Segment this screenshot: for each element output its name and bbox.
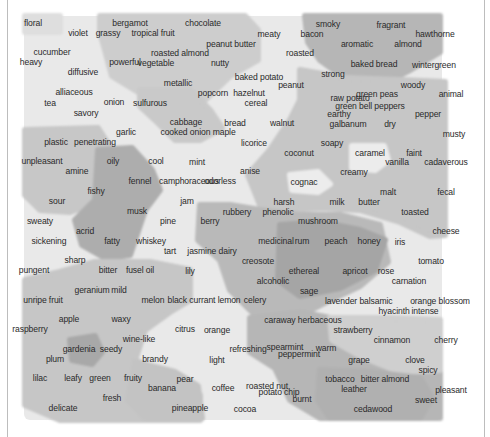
odor-label: pleasant <box>435 386 467 395</box>
odor-label: fruity <box>124 374 142 383</box>
odor-label: walnut <box>270 119 294 128</box>
odor-label: carnation <box>392 277 426 286</box>
odor-label: green <box>89 374 110 383</box>
odor-label: seedy <box>100 345 122 354</box>
odor-label: wintergreen <box>412 61 456 70</box>
odor-label: peanut butter <box>206 40 255 49</box>
odor-label: pepper <box>415 110 441 119</box>
odor-label: berry <box>200 217 219 226</box>
odor-label: citrus <box>175 325 195 334</box>
odor-label: banana <box>148 384 176 393</box>
odor-label: cherry <box>434 336 457 345</box>
odor-label: fennel <box>129 177 152 186</box>
odor-label: milk <box>330 198 345 207</box>
odor-label: animal <box>439 90 464 99</box>
odor-label: cabbage <box>170 118 202 127</box>
odor-label: honey <box>358 237 381 246</box>
odor-label: lilac <box>33 374 47 383</box>
odor-label: sulfurous <box>133 99 167 108</box>
odor-label: apple <box>59 315 80 324</box>
odor-label: burnt <box>292 395 311 404</box>
odor-label: creamy <box>340 168 368 177</box>
odor-label: orange <box>204 326 230 335</box>
odor-label: anise <box>240 167 260 176</box>
odor-label: caramel <box>355 149 385 158</box>
odor-label: refreshing <box>229 345 266 354</box>
odor-label: bergamot <box>112 19 148 28</box>
odor-label: tart <box>164 247 176 256</box>
odor-label: celery <box>244 296 266 305</box>
odor-label: metallic <box>164 79 192 88</box>
odor-label: vanilla <box>385 158 409 167</box>
odor-label: brandy <box>142 355 168 364</box>
odor-label: caraway herbaceous <box>264 316 342 325</box>
odor-label: hazelnut <box>233 89 265 98</box>
odor-label: black currant lemon <box>167 296 240 305</box>
odor-label: iris <box>395 238 406 247</box>
odor-label: whiskey <box>136 237 166 246</box>
odor-label: strong <box>321 70 344 79</box>
odor-label: baked potato <box>235 73 284 82</box>
odor-label: ethereal <box>289 267 319 276</box>
odor-label: cocoa <box>234 405 256 414</box>
odor-label: aromatic <box>341 40 373 49</box>
odor-label: baked bread <box>351 60 398 69</box>
odor-label: leather <box>341 385 367 394</box>
odor-label: leafy <box>64 374 82 383</box>
odor-label: vegetable <box>138 59 174 68</box>
label-layer: floralbergamotchocolatesmokyfragrantviol… <box>0 0 490 437</box>
odor-label: acrid <box>76 227 94 236</box>
odor-label: jam <box>180 197 194 206</box>
odor-label: popcorn <box>198 89 228 98</box>
odor-label: mushroom <box>298 217 338 226</box>
odor-label: cereal <box>245 99 268 108</box>
odor-label: sage <box>300 287 318 296</box>
odor-label: waxy <box>111 315 130 324</box>
odor-descriptor-map: floralbergamotchocolatesmokyfragrantviol… <box>22 14 462 430</box>
odor-label: mint <box>189 158 205 167</box>
odor-label: balsamic <box>359 297 392 306</box>
odor-label: bitter <box>99 266 118 275</box>
odor-label: melon <box>142 296 165 305</box>
odor-label: soapy <box>321 139 343 148</box>
odor-label: amine <box>66 167 89 176</box>
odor-label: almond <box>394 40 422 49</box>
odor-label: garlic <box>116 128 136 137</box>
odor-label: lavender <box>325 297 357 306</box>
odor-label: musk <box>127 207 147 216</box>
odor-label: tropical fruit <box>131 29 174 38</box>
odor-label: alliaceous <box>55 88 92 97</box>
odor-label: unpleasant <box>21 157 62 166</box>
odor-label: rose <box>378 267 394 276</box>
odor-label: sweet <box>415 396 437 405</box>
odor-label: powerful <box>109 58 141 67</box>
odor-label: bacon <box>301 30 324 39</box>
odor-label: fresh <box>103 394 122 403</box>
odor-label: coconut <box>284 149 313 158</box>
odor-label: sour <box>49 197 65 206</box>
odor-label: clove <box>405 356 425 365</box>
odor-label: jasmine dairy <box>187 247 236 256</box>
odor-label: galbanum <box>330 120 367 129</box>
odor-label: grassy <box>96 29 121 38</box>
odor-label: cheese <box>432 227 459 236</box>
odor-label: plastic <box>44 138 68 147</box>
odor-label: rubbery <box>223 208 251 217</box>
odor-label: intense <box>411 307 438 316</box>
odor-label: phenolic <box>262 208 293 217</box>
odor-label: fatty <box>104 237 120 246</box>
odor-label: floral <box>24 19 42 28</box>
odor-label: pungent <box>19 266 49 275</box>
odor-label: cinnamon <box>374 336 410 345</box>
odor-label: butter <box>358 198 379 207</box>
odor-label: apricot <box>342 267 367 276</box>
odor-label: hawthorne <box>415 30 454 39</box>
odor-label: toasted <box>401 208 429 217</box>
odor-label: cognac <box>290 178 317 187</box>
odor-label: tobacco <box>325 375 354 384</box>
odor-label: geranium <box>74 286 109 295</box>
odor-label: gardenia <box>63 345 96 354</box>
odor-label: plum <box>46 355 64 364</box>
odor-label: orange blossom <box>410 297 470 306</box>
odor-label: coffee <box>212 384 235 393</box>
